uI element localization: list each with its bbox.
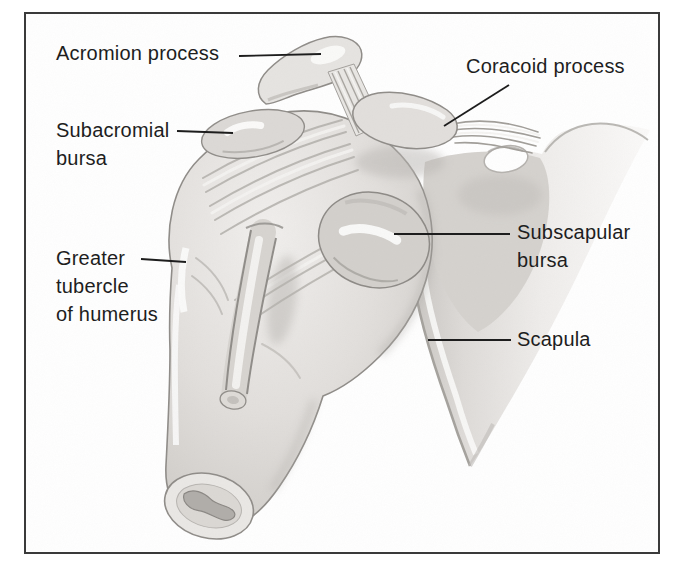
label-line: Coracoid process <box>466 52 625 80</box>
label-line: bursa <box>517 246 630 274</box>
label-line: bursa <box>56 144 169 172</box>
label-line: tubercle <box>56 272 158 300</box>
label-greater-tubercle-of-humerus: Greater tubercle of humerus <box>56 244 158 328</box>
label-line: Acromion process <box>56 39 219 67</box>
label-line: Greater <box>56 244 158 272</box>
label-subacromial-bursa: Subacromial bursa <box>56 116 169 172</box>
label-line: Scapula <box>517 325 591 353</box>
label-subscapular-bursa: Subscapular bursa <box>517 218 630 274</box>
label-line: Subacromial <box>56 116 169 144</box>
label-line: of humerus <box>56 300 158 328</box>
label-line: Subscapular <box>517 218 630 246</box>
label-acromion-process: Acromion process <box>56 39 219 67</box>
label-scapula: Scapula <box>517 325 591 353</box>
label-coracoid-process: Coracoid process <box>466 52 625 80</box>
figure: Acromion process Subacromial bursa Great… <box>0 0 688 573</box>
